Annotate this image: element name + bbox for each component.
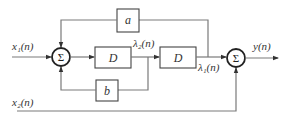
gain-b-to-sum1-wire [61, 67, 96, 90]
gain-a-label: a [125, 13, 131, 27]
lambda1-label: λ₁(n) [197, 61, 220, 74]
x2-label: x₂(n) [11, 96, 34, 109]
gain-a-to-sum1-wire [61, 20, 117, 47]
sum2-symbol: Σ [233, 52, 239, 64]
x1-label: x₁(n) [11, 40, 34, 53]
lambda2-label: λ₂(n) [132, 37, 155, 50]
gain-b-label: b [104, 84, 110, 98]
block-diagram: x₁(n) Σ D λ₂(n) b D λ₁(n) a Σ x₂(n) y(n) [0, 0, 288, 121]
output-label: y(n) [252, 40, 271, 53]
delay1-label: D [108, 51, 118, 65]
sum1-symbol: Σ [58, 51, 64, 63]
delay2-label: D [173, 51, 183, 65]
